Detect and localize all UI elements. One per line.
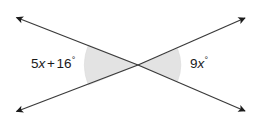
angle-label-left: 5x+16° bbox=[31, 57, 75, 71]
angle-left-wedge bbox=[85, 45, 138, 85]
line-descending-right-half bbox=[138, 65, 245, 111]
line-ascending-left-half bbox=[17, 65, 139, 112]
degree-symbol-icon: ° bbox=[72, 55, 76, 65]
shaded-angle-regions bbox=[85, 45, 181, 85]
angle-left-constant: 16 bbox=[56, 56, 71, 71]
angle-diagram: 5x+16° 9x° bbox=[0, 0, 261, 120]
angle-left-operator: + bbox=[45, 56, 56, 71]
angle-right-wedge bbox=[138, 49, 181, 81]
degree-symbol-icon: ° bbox=[204, 55, 208, 65]
angle-right-coefficient: 9 bbox=[190, 56, 198, 71]
angle-left-coefficient: 5 bbox=[31, 56, 39, 71]
angle-label-right: 9x° bbox=[190, 57, 208, 71]
